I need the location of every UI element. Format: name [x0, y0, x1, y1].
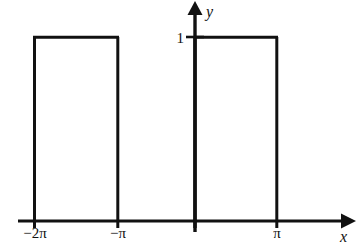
x-tick-label-minus-two-pi: −2π — [23, 226, 47, 241]
y-axis-arrowhead — [188, 1, 203, 15]
y-tick-label-one: 1 — [170, 31, 184, 46]
x-axis-label: x — [340, 229, 347, 245]
x-tick-label-pi: π — [273, 226, 281, 241]
y-axis-label: y — [206, 4, 213, 20]
x-tick-label-minus-pi: −π — [110, 226, 126, 241]
x-axis-arrowhead — [341, 214, 356, 229]
square-wave-figure: y x 1 −2π −π π — [0, 0, 362, 245]
